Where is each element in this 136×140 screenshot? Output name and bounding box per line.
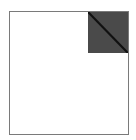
document-icon xyxy=(9,11,129,135)
icon-canvas xyxy=(0,0,136,140)
folded-corner xyxy=(88,12,128,53)
fold-line-icon xyxy=(88,12,128,53)
